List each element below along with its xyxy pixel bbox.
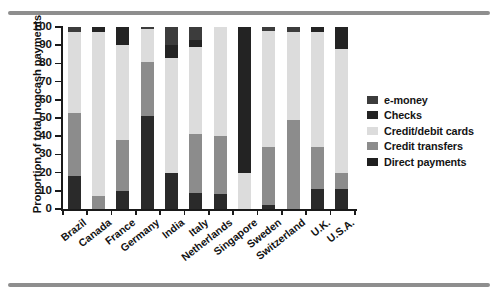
y-axis-tick — [55, 44, 61, 46]
y-axis-tick — [55, 99, 61, 101]
bar-segment — [68, 176, 81, 209]
bar-india — [165, 27, 178, 209]
bar-segment — [311, 189, 324, 209]
bar-segment — [141, 116, 154, 209]
y-axis-tick — [55, 154, 61, 156]
x-axis-tick — [257, 210, 259, 215]
y-axis-tick — [55, 190, 61, 192]
bar-segment — [141, 27, 154, 29]
bar-segment — [311, 27, 324, 32]
bar-segment — [335, 173, 348, 189]
bar-segment — [165, 27, 178, 45]
legend-swatch-icon — [367, 127, 378, 135]
bar-segment — [68, 32, 81, 112]
bar-segment — [116, 191, 129, 209]
bar-segment — [262, 27, 275, 31]
bar-segment — [189, 47, 202, 134]
bar-segment — [116, 140, 129, 191]
x-axis-tick — [281, 210, 283, 215]
bar-segment — [165, 58, 178, 173]
x-axis-tick — [135, 210, 137, 215]
bar-segment — [335, 27, 348, 49]
bar-segment — [68, 27, 81, 32]
plot-area — [62, 27, 354, 209]
legend-item: e-money — [367, 92, 474, 108]
legend-swatch-icon — [367, 158, 378, 166]
legend-label: Credit/debit cards — [384, 125, 474, 137]
bar-segment — [238, 27, 251, 173]
y-axis-tick — [55, 26, 61, 28]
bar-segment — [311, 147, 324, 189]
bar-singapore — [238, 27, 251, 209]
legend-item: Direct payments — [367, 154, 474, 170]
legend-label: Credit transfers — [384, 140, 463, 152]
x-axis-tick — [305, 210, 307, 215]
bar-france — [116, 27, 129, 209]
y-axis-tick — [55, 63, 61, 65]
y-axis-tick — [55, 135, 61, 137]
bar-segment — [287, 27, 300, 32]
legend-label: Checks — [384, 109, 422, 121]
y-axis-tick-label: 90 — [24, 38, 52, 50]
bar-segment — [238, 173, 251, 209]
bar-segment — [262, 31, 275, 147]
legend-swatch-icon — [367, 111, 378, 119]
x-axis-tick — [184, 210, 186, 215]
y-axis-tick-label: 10 — [24, 184, 52, 196]
bar-segment — [189, 193, 202, 209]
bar-netherlands — [214, 27, 227, 209]
bar-segment — [189, 27, 202, 40]
bar-switzerland — [287, 27, 300, 209]
bar-segment — [189, 40, 202, 47]
bar-segment — [141, 62, 154, 117]
bar-segment — [92, 196, 105, 209]
legend-label: e-money — [384, 94, 428, 106]
bar-segment — [141, 29, 154, 62]
chart-legend: e-moneyChecksCredit/debit cardsCredit tr… — [367, 92, 474, 170]
x-axis-tick — [208, 210, 210, 215]
x-axis-tick — [62, 210, 64, 215]
y-axis-tick-label: 70 — [24, 75, 52, 87]
bar-uk — [311, 27, 324, 209]
bar-italy — [189, 27, 202, 209]
bar-canada — [92, 27, 105, 209]
y-axis-tick — [55, 117, 61, 119]
bar-segment — [262, 205, 275, 209]
bar-usa — [335, 27, 348, 209]
bar-germany — [141, 27, 154, 209]
bar-segment — [335, 189, 348, 209]
bar-segment — [165, 45, 178, 58]
bar-sweden — [262, 27, 275, 209]
bar-segment — [214, 194, 227, 209]
bar-segment — [116, 27, 129, 45]
bar-segment — [214, 27, 227, 136]
bar-segment — [287, 120, 300, 209]
x-axis-tick — [330, 210, 332, 215]
bar-segment — [287, 32, 300, 119]
y-axis-tick-label: 0 — [24, 202, 52, 214]
y-axis-tick-label: 50 — [24, 111, 52, 123]
y-axis-tick-label: 20 — [24, 166, 52, 178]
x-axis-tick — [354, 210, 356, 215]
legend-swatch-icon — [367, 96, 378, 104]
y-axis-tick — [55, 81, 61, 83]
legend-item: Checks — [367, 108, 474, 124]
legend-label: Direct payments — [384, 156, 467, 168]
y-axis-tick-label: 30 — [24, 147, 52, 159]
legend-item: Credit transfers — [367, 139, 474, 155]
x-axis-tick — [86, 210, 88, 215]
y-axis-tick-label: 60 — [24, 93, 52, 105]
bar-segment — [262, 147, 275, 205]
y-axis-tick — [55, 208, 61, 210]
bar-segment — [189, 134, 202, 192]
y-axis-tick-label: 80 — [24, 56, 52, 68]
legend-item: Credit/debit cards — [367, 123, 474, 139]
bar-segment — [165, 173, 178, 209]
x-axis-tick — [159, 210, 161, 215]
bar-segment — [335, 49, 348, 173]
y-axis-tick-label: 40 — [24, 129, 52, 141]
y-axis-tick — [55, 172, 61, 174]
chart-figure: Proportion of total noncash payments 010… — [0, 0, 498, 300]
bar-segment — [92, 32, 105, 196]
bar-segment — [311, 32, 324, 147]
